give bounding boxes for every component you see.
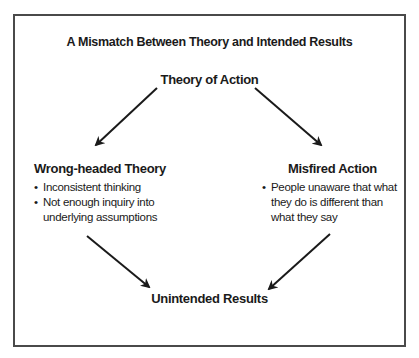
arrow-icon (96, 88, 157, 145)
arrows-layer (0, 0, 419, 358)
arrow-icon (269, 234, 330, 289)
arrow-icon (255, 88, 321, 145)
arrow-icon (87, 236, 149, 287)
